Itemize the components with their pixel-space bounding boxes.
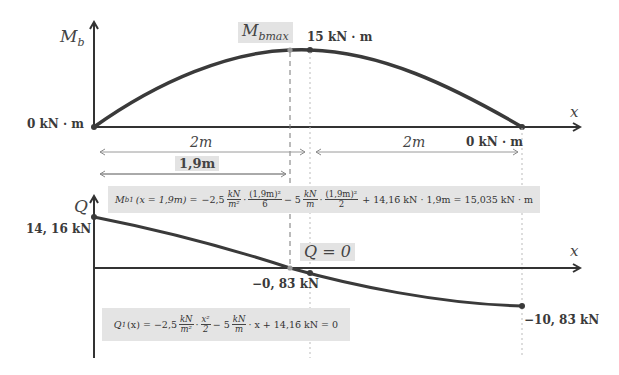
moment-x-axis-label: x bbox=[570, 105, 578, 120]
shear-end-point bbox=[519, 303, 525, 309]
shear-left-value: 14, 16̄ kN bbox=[26, 223, 91, 235]
shear-zero-point bbox=[287, 265, 292, 270]
moment-start-point bbox=[91, 124, 97, 130]
moment-formula: Mb1 (x = 1,9m) = −2,5 kNm²· (1,9m)²6 − 5… bbox=[108, 186, 540, 213]
shear-mid-point bbox=[307, 270, 313, 276]
shear-curve bbox=[94, 217, 522, 306]
dim-max-label: 1,9m bbox=[175, 156, 219, 171]
moment-curve bbox=[94, 50, 522, 127]
moment-left-value: 0 kN · m bbox=[27, 118, 84, 130]
shear-formula: Q1 (x) = −2,5 kNm²· x²2 − 5 kNm · x + 14… bbox=[102, 308, 350, 341]
dim-left-label: 2m bbox=[190, 135, 212, 149]
moment-max-point bbox=[287, 47, 292, 52]
moment-axis-label: Mb bbox=[60, 28, 84, 48]
shear-x-axis-label: x bbox=[570, 244, 578, 259]
moment-max-label: Mbmax bbox=[238, 22, 293, 43]
shear-right-value: −10, 83̄ kN bbox=[524, 314, 599, 326]
moment-max-value: 15 kN · m bbox=[307, 31, 372, 43]
moment-right-value: 0 kN · m bbox=[466, 136, 523, 148]
shear-axis-label: Q bbox=[74, 198, 88, 215]
dim-right-label: 2m bbox=[403, 135, 425, 149]
shear-start-point bbox=[91, 214, 97, 220]
shear-zero-label: Q = 0 bbox=[300, 243, 355, 261]
shear-mid-value: −0, 83̄ kN bbox=[252, 278, 319, 290]
